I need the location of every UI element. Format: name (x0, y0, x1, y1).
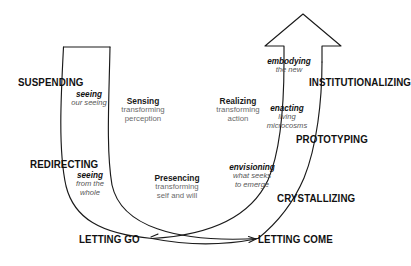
note-presencing: Presencing transforming self and will (141, 174, 213, 201)
right-inner-arm (152, 62, 284, 239)
note-seeing-whole-rest: from the whole (63, 180, 117, 197)
left-inner-arm (108, 47, 258, 239)
stage-label-letting-come: LETTING COME (258, 234, 333, 246)
note-embodying-rest: the new (258, 66, 320, 75)
stage-label-prototyping: PROTOTYPING (296, 134, 368, 146)
note-sensing-rest: transforming perception (112, 106, 174, 123)
stage-label-suspending: SUSPENDING (18, 77, 84, 89)
stage-label-institutionalizing: INSTITUTIONALIZING (309, 77, 411, 89)
letting-go-lead (151, 234, 158, 237)
note-seeing-whole: seeing from the whole (63, 171, 117, 197)
note-realizing: Realizing transforming action (206, 97, 270, 124)
note-realizing-rest: transforming action (206, 106, 270, 123)
note-sensing: Sensing transforming perception (112, 97, 174, 124)
note-seeing: seeing our seeing (62, 90, 116, 108)
stage-label-letting-go: LETTING GO (79, 234, 140, 246)
note-embodying: embodying the new (258, 57, 320, 75)
note-presencing-rest: transforming self and will (141, 183, 213, 200)
stage-label-crystallizing: CRYSTALLIZING (277, 193, 355, 205)
note-seeing-rest: our seeing (62, 99, 116, 108)
stage-label-redirecting: REDIRECTING (30, 159, 98, 171)
note-envisioning-rest: what seeks to emerge (218, 172, 286, 189)
note-envisioning: envisioning what seeks to emerge (218, 163, 286, 189)
up-arrow-head (265, 14, 341, 62)
